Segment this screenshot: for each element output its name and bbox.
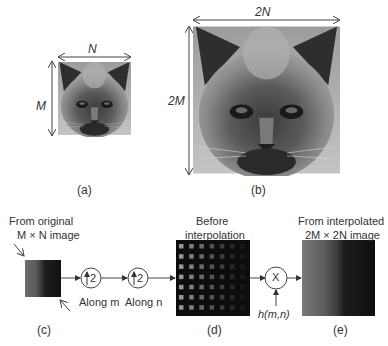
multiply-symbol: X [272, 271, 279, 283]
upsample-n-factor: 2 [137, 272, 143, 284]
cat-image-small [58, 62, 131, 138]
interpolated-block [302, 240, 375, 316]
upsample-n-label: Along n [125, 296, 162, 308]
width-label-n: N [88, 42, 97, 56]
caption-e: (e) [333, 323, 348, 337]
width-label-2n: 2N [255, 5, 270, 19]
cat-image-large [193, 27, 340, 180]
height-label-m: M [36, 99, 46, 113]
panel-c-title-2: M × N image [17, 229, 80, 241]
height-label-2m: 2M [168, 94, 185, 108]
filter-label: h(m,n) [258, 308, 290, 320]
panel-c-title-1: From original [9, 215, 73, 227]
caption-d: (d) [207, 323, 222, 337]
panel-e-title-1: From interpolated [298, 215, 384, 227]
upsample-m-label: Along m [79, 296, 119, 308]
caption-b: (b) [251, 183, 266, 197]
panel-e-title-2: 2M × 2N image [305, 229, 380, 241]
caption-a: (a) [77, 183, 92, 197]
original-block [25, 260, 61, 297]
caption-c: (c) [37, 323, 51, 337]
zero-inserted-grid [176, 240, 250, 316]
diagram-lines [0, 0, 388, 346]
upsample-m-factor: 2 [90, 272, 96, 284]
panel-d-title-2: interpolation [185, 229, 245, 241]
panel-d-title-1: Before [196, 215, 228, 227]
